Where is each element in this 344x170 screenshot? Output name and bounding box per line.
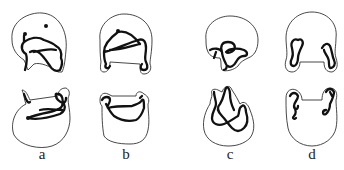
panel-c-top-cell	[206, 16, 258, 71]
panel-d-top-cell	[285, 12, 337, 72]
panel-a-top-cell	[12, 13, 66, 72]
figure	[0, 0, 344, 170]
panel-b-top-cell	[100, 14, 152, 74]
panel-label-a: a	[32, 146, 52, 163]
panel-b	[100, 14, 152, 144]
panel-label-c: c	[220, 146, 240, 163]
panel-b-bottom-cell	[100, 92, 149, 144]
panel-d	[285, 12, 337, 146]
panel-a-bottom-cell	[13, 88, 71, 148]
panel-label-b: b	[116, 146, 136, 163]
panel-a	[12, 13, 70, 148]
panel-label-d: d	[302, 146, 322, 163]
panel-c	[203, 16, 258, 146]
panel-d-bottom-cell	[286, 88, 337, 146]
panel-c-bottom-cell	[203, 86, 253, 146]
